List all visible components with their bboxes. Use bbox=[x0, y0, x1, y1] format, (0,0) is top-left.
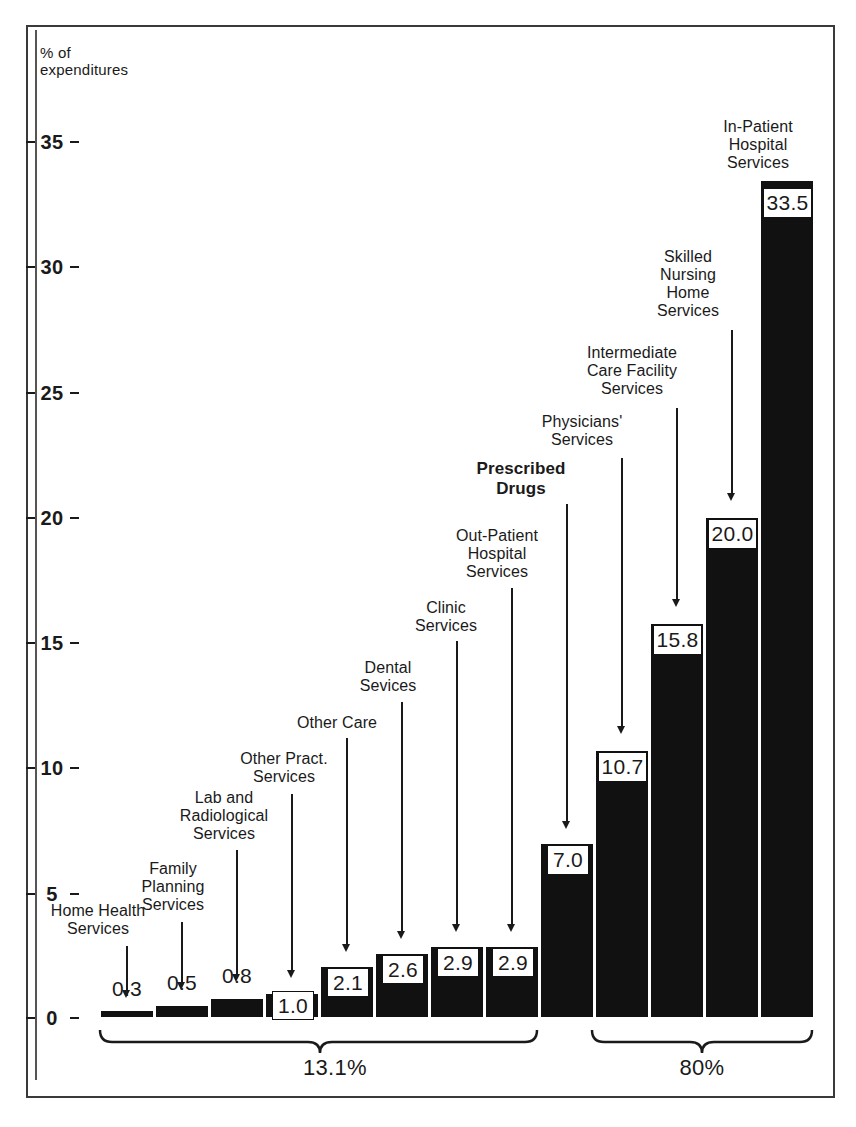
leader-other-care bbox=[346, 738, 348, 946]
callout-other-care: Other Care bbox=[272, 714, 402, 732]
arrowhead-out-patient-hospital-services-icon bbox=[507, 924, 515, 932]
callout-prescribed-drugs: Prescribed Drugs bbox=[455, 459, 587, 499]
arrowhead-clinic-services-icon bbox=[452, 924, 460, 932]
leader-skilled-nursing-home-services bbox=[731, 330, 733, 495]
bar-lab-and-radiological-services bbox=[210, 998, 264, 1018]
callout-intermediate-care-facility-services: Intermediate Care Facility Services bbox=[560, 344, 704, 398]
leader-dental-sevices bbox=[401, 702, 403, 933]
leader-home-health-services bbox=[126, 946, 128, 992]
value-label-clinic-services: 2.9 bbox=[437, 948, 479, 977]
tick-dash-left-icon bbox=[26, 893, 35, 895]
value-label-physicians-services: 10.7 bbox=[598, 752, 647, 782]
callout-physicians-services: Physicians' Services bbox=[520, 413, 644, 449]
y-tick-5: 5 bbox=[26, 884, 79, 904]
tick-dash-right-icon bbox=[70, 392, 79, 394]
value-label-prescribed-drugs: 7.0 bbox=[547, 845, 589, 875]
callout-skilled-nursing-home-services: Skilled Nursing Home Services bbox=[630, 248, 746, 320]
callout-family-planning-services: Family Planning Services bbox=[118, 860, 228, 914]
arrowhead-other-care-icon bbox=[342, 944, 350, 952]
arrowhead-family-planning-services-icon bbox=[177, 982, 185, 990]
bar-intermediate-care-facility-services bbox=[650, 623, 704, 1018]
arrowhead-prescribed-drugs-icon bbox=[562, 821, 570, 829]
value-label-skilled-nursing-home-services: 20.0 bbox=[708, 519, 757, 549]
arrowhead-skilled-nursing-home-services-icon bbox=[727, 493, 735, 501]
arrowhead-home-health-services-icon bbox=[122, 990, 130, 998]
leader-out-patient-hospital-services bbox=[511, 588, 513, 926]
tick-dash-left-icon bbox=[26, 517, 35, 519]
y-tick-15: 15 bbox=[26, 633, 79, 653]
tick-dash-right-icon bbox=[70, 642, 79, 644]
tick-dash-right-icon bbox=[70, 266, 79, 268]
y-tick-25: 25 bbox=[26, 383, 79, 403]
tick-dash-right-icon bbox=[70, 893, 79, 895]
value-label-dental-sevices: 2.6 bbox=[382, 955, 424, 984]
arrowhead-physicians-services-icon bbox=[617, 726, 625, 734]
bar-physicians-services bbox=[595, 750, 649, 1018]
leader-prescribed-drugs bbox=[566, 504, 568, 823]
callout-out-patient-hospital-services: Out-Patient Hospital Services bbox=[437, 527, 557, 581]
bar-family-planning-services bbox=[155, 1005, 209, 1018]
leader-other-pract-services bbox=[291, 794, 293, 972]
callout-clinic-services: Clinic Services bbox=[388, 599, 504, 635]
arrowhead-other-pract-services-icon bbox=[287, 970, 295, 978]
leader-intermediate-care-facility-services bbox=[676, 408, 678, 601]
callout-other-pract-services: Other Pract. Services bbox=[218, 750, 350, 786]
brace-label-right: 80% bbox=[627, 1055, 777, 1081]
tick-dash-left-icon bbox=[26, 642, 35, 644]
tick-dash-left-icon bbox=[26, 141, 35, 143]
y-tick-10: 10 bbox=[26, 758, 79, 778]
bar-skilled-nursing-home-services bbox=[705, 517, 759, 1018]
tick-dash-left-icon bbox=[26, 1017, 35, 1019]
y-tick-30: 30 bbox=[26, 257, 79, 277]
tick-dash-right-icon bbox=[70, 767, 79, 769]
expenditure-bar-chart: % of expenditures 35 30 25 20 15 10 5 0 … bbox=[0, 0, 856, 1127]
callout-dental-sevices: Dental Sevices bbox=[330, 659, 446, 695]
tick-dash-left-icon bbox=[26, 392, 35, 394]
leader-family-planning-services bbox=[181, 922, 183, 984]
tick-dash-left-icon bbox=[26, 767, 35, 769]
tick-dash-right-icon bbox=[70, 141, 79, 143]
value-label-out-patient-hospital-services: 2.9 bbox=[492, 948, 534, 977]
callout-in-patient-hospital-services: In-Patient Hospital Services bbox=[700, 118, 816, 172]
y-tick-20: 20 bbox=[26, 508, 79, 528]
value-label-other-care: 2.1 bbox=[327, 968, 369, 997]
tick-dash-left-icon bbox=[26, 266, 35, 268]
leader-clinic-services bbox=[456, 641, 458, 926]
tick-dash-right-icon bbox=[70, 1017, 79, 1019]
value-label-other-pract-services: 1.0 bbox=[272, 991, 314, 1020]
y-axis-title: % of expenditures bbox=[40, 44, 128, 78]
bar-in-patient-hospital-services bbox=[760, 180, 814, 1018]
y-tick-35: 35 bbox=[26, 132, 79, 152]
bar-home-health-services bbox=[100, 1010, 154, 1018]
arrowhead-lab-and-radiological-services-icon bbox=[232, 974, 240, 982]
value-label-in-patient-hospital-services: 33.5 bbox=[763, 188, 812, 218]
callout-lab-and-radiological-services: Lab and Radiological Services bbox=[160, 789, 288, 843]
arrowhead-intermediate-care-facility-services-icon bbox=[672, 599, 680, 607]
leader-physicians-services bbox=[621, 458, 623, 728]
y-tick-0: 0 bbox=[26, 1008, 79, 1028]
leader-lab-and-radiological-services bbox=[236, 850, 238, 976]
tick-dash-right-icon bbox=[70, 517, 79, 519]
value-label-intermediate-care-facility-services: 15.8 bbox=[653, 625, 702, 655]
brace-label-left: 13.1% bbox=[260, 1055, 410, 1081]
arrowhead-dental-sevices-icon bbox=[397, 931, 405, 939]
